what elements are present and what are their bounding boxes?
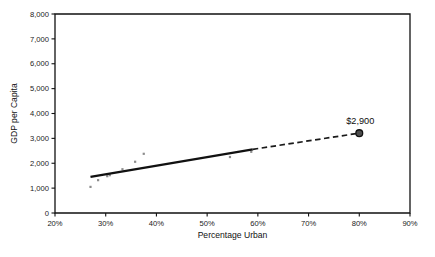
x-tick-label: 90%	[402, 219, 417, 228]
data-point	[143, 153, 145, 155]
x-tick-label: 80%	[352, 219, 367, 228]
y-tick-label: 8,000	[30, 10, 49, 19]
trend-line-projected	[253, 133, 359, 149]
data-point	[89, 186, 91, 188]
x-axis-ticks: 20%30%40%50%60%70%80%90%	[47, 213, 417, 228]
data-point	[134, 161, 136, 163]
y-tick-label: 3,000	[30, 134, 49, 143]
y-tick-label: 2,000	[30, 159, 49, 168]
y-axis-title: GDP per Capita	[9, 83, 19, 144]
y-tick-label: 7,000	[30, 35, 49, 44]
annotation-layer: $2,900	[346, 116, 374, 126]
chart-container: 01,0002,0003,0004,0005,0006,0007,0008,00…	[0, 0, 435, 257]
x-tick-label: 70%	[301, 219, 316, 228]
data-point	[97, 179, 99, 181]
trend-line-fitted	[91, 149, 253, 177]
y-tick-label: 6,000	[30, 59, 49, 68]
y-axis-ticks: 01,0002,0003,0004,0005,0006,0007,0008,00…	[30, 10, 55, 218]
y-tick-label: 4,000	[30, 109, 49, 118]
x-tick-label: 40%	[149, 219, 164, 228]
y-tick-label: 0	[45, 209, 49, 218]
projected-value-marker	[356, 130, 363, 137]
data-point	[229, 156, 231, 158]
y-tick-label: 1,000	[30, 184, 49, 193]
plot-border	[55, 14, 410, 213]
data-point	[250, 151, 252, 153]
x-axis-title: Percentage Urban	[198, 230, 268, 240]
x-tick-label: 60%	[250, 219, 265, 228]
y-tick-label: 5,000	[30, 84, 49, 93]
data-point	[121, 168, 123, 170]
scatter-chart: 01,0002,0003,0004,0005,0006,0007,0008,00…	[0, 0, 435, 257]
x-tick-label: 20%	[47, 219, 62, 228]
value-annotation: $2,900	[346, 116, 374, 126]
x-tick-label: 50%	[200, 219, 215, 228]
plot-frame	[55, 14, 410, 213]
x-tick-label: 30%	[98, 219, 113, 228]
series-layer	[89, 130, 362, 188]
